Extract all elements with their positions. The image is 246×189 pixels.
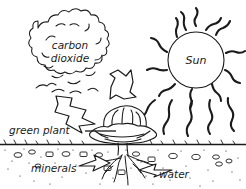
- co2-arrow-secondary-shape: [110, 70, 136, 99]
- sun-label: Sun: [186, 54, 207, 67]
- carbon-dioxide-label-line1: carbon: [52, 39, 88, 51]
- carbon-dioxide-label-line2: dioxide: [51, 52, 89, 64]
- plant-stem-left: [118, 143, 119, 155]
- diagram-canvas: carbon dioxide Sun: [0, 0, 246, 189]
- arrow-co2-to-plant-secondary: [110, 70, 136, 99]
- green-plant-label: green plant: [9, 124, 71, 136]
- photosynthesis-diagram: carbon dioxide Sun: [0, 0, 246, 189]
- minerals-label: minerals: [31, 162, 77, 174]
- water-label: water: [159, 168, 190, 180]
